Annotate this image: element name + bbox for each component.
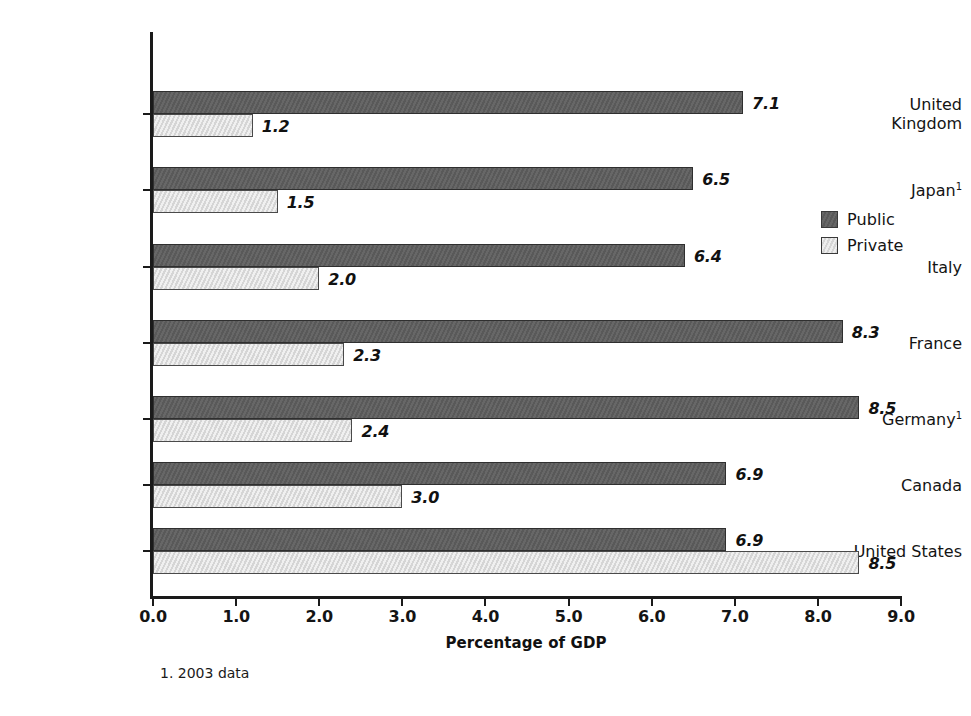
bar-value-label: 2.4 <box>361 422 389 441</box>
chart-footnote: 1. 2003 data <box>160 665 249 681</box>
bar-value-label: 2.3 <box>353 346 381 365</box>
bar-public-japan <box>153 167 693 190</box>
legend-label: Public <box>847 210 895 229</box>
x-tick-label: 4.0 <box>455 607 515 626</box>
category-label-france: France <box>826 334 971 353</box>
x-tick-4.0 <box>484 597 486 606</box>
footnote-marker: 1 <box>956 180 962 191</box>
bar-value-label: 3.0 <box>411 488 439 507</box>
x-tick-label: 1.0 <box>206 607 266 626</box>
bar-public-italy <box>153 244 685 267</box>
x-tick-label: 7.0 <box>705 607 765 626</box>
category-tick <box>143 113 152 115</box>
x-tick-8.0 <box>817 597 819 606</box>
x-tick-1.0 <box>235 597 237 606</box>
x-tick-7.0 <box>734 597 736 606</box>
legend-label: Private <box>847 236 903 255</box>
x-tick-label: 2.0 <box>289 607 349 626</box>
bar-value-label: 8.5 <box>868 399 896 418</box>
bar-private-japan <box>153 190 278 213</box>
category-tick <box>143 189 152 191</box>
category-tick <box>143 342 152 344</box>
legend-swatch-public <box>821 211 838 228</box>
category-label-japan: Japan1 <box>826 181 971 200</box>
x-axis-line <box>150 596 902 599</box>
bar-value-label: 8.3 <box>852 323 880 342</box>
x-axis-title: Percentage of GDP <box>150 634 902 652</box>
bar-private-italy <box>153 267 319 290</box>
bar-private-france <box>153 343 344 366</box>
x-tick-6.0 <box>651 597 653 606</box>
x-tick-2.0 <box>318 597 320 606</box>
bar-value-label: 2.0 <box>328 270 356 289</box>
x-tick-9.0 <box>900 597 902 606</box>
bar-chart: 0.01.02.03.04.05.06.07.08.09.0 UnitedKin… <box>0 0 971 716</box>
bar-value-label: 6.9 <box>735 465 763 484</box>
bar-public-united-kingdom <box>153 91 743 114</box>
bar-value-label: 6.9 <box>735 531 763 550</box>
x-tick-label: 8.0 <box>788 607 848 626</box>
x-tick-label: 9.0 <box>871 607 931 626</box>
category-tick <box>143 550 152 552</box>
legend-item-public: Public <box>821 208 903 230</box>
bar-private-united-states <box>153 551 859 574</box>
category-tick <box>143 418 152 420</box>
category-label-canada: Canada <box>826 476 971 495</box>
bar-value-label: 8.5 <box>868 554 896 573</box>
category-label-italy: Italy <box>826 258 971 277</box>
x-tick-0.0 <box>152 597 154 606</box>
category-tick <box>143 266 152 268</box>
bar-private-germany <box>153 419 352 442</box>
bar-private-canada <box>153 485 402 508</box>
bar-public-united-states <box>153 528 726 551</box>
bar-public-germany <box>153 396 859 419</box>
bar-value-label: 1.5 <box>287 193 315 212</box>
chart-legend: PublicPrivate <box>821 208 903 260</box>
bar-value-label: 6.5 <box>702 170 730 189</box>
x-tick-label: 0.0 <box>123 607 183 626</box>
x-tick-label: 5.0 <box>539 607 599 626</box>
bar-private-united-kingdom <box>153 114 253 137</box>
x-tick-5.0 <box>568 597 570 606</box>
x-tick-label: 3.0 <box>372 607 432 626</box>
category-label-united-kingdom: UnitedKingdom <box>826 95 971 133</box>
category-tick <box>143 484 152 486</box>
legend-item-private: Private <box>821 234 903 256</box>
bar-public-canada <box>153 462 726 485</box>
legend-swatch-private <box>821 237 838 254</box>
bar-value-label: 6.4 <box>694 247 722 266</box>
bar-public-france <box>153 320 843 343</box>
x-tick-label: 6.0 <box>622 607 682 626</box>
bar-value-label: 1.2 <box>262 117 290 136</box>
footnote-marker: 1 <box>956 409 962 420</box>
x-tick-3.0 <box>401 597 403 606</box>
bar-value-label: 7.1 <box>752 94 780 113</box>
